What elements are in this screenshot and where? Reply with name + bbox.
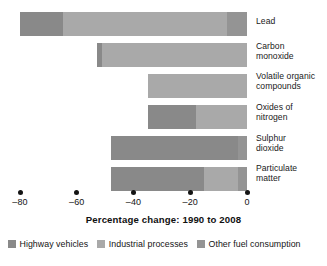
category-label: Lead [256,17,275,27]
x-axis-tick-label: –80 [0,197,40,207]
bar-segment [111,136,239,160]
bar-row [0,12,327,36]
stacked-bar [148,105,247,129]
legend-label: Other fuel consumption [209,239,301,249]
category-label: Particulate matter [256,164,297,183]
x-axis-tick-label: –60 [57,197,97,207]
stacked-bar [111,167,247,191]
bar-segment [196,105,247,129]
stacked-bar [148,74,247,98]
plot-area: LeadCarbon monoxideVolatile organic comp… [0,0,327,190]
x-axis: –80–60–40–200 [0,190,327,216]
chart-legend: Highway vehiclesIndustrial processesOthe… [0,234,327,254]
legend-item: Other fuel consumption [197,239,301,249]
stacked-bar-chart: LeadCarbon monoxideVolatile organic comp… [0,0,327,266]
stacked-bar [97,43,247,67]
category-label: Sulphur dioxide [256,134,286,153]
bar-segment [111,167,205,191]
x-axis-tick-label: –40 [114,197,154,207]
tick-dot-marker [188,190,193,195]
bar-segment [102,43,247,67]
x-axis-title: Percentage change: 1990 to 2008 [0,214,327,225]
bar-segment [148,105,196,129]
tick-dot-marker [245,190,250,195]
category-label: Carbon monoxide [256,42,294,61]
tick-dot-marker [18,190,23,195]
legend-color-swatch [97,240,105,248]
stacked-bar [111,136,247,160]
legend-item: Highway vehicles [8,239,88,249]
legend-label: Industrial processes [109,239,188,249]
legend-label: Highway vehicles [20,239,89,249]
bar-segment [148,74,247,98]
legend-color-swatch [8,240,16,248]
x-axis-tick-label: 0 [227,197,267,207]
category-label: Volatile organic compounds [256,72,315,91]
bar-segment [227,12,247,36]
bar-segment [204,167,238,191]
tick-dot-marker [74,190,79,195]
category-label: Oxides of nitrogen [256,103,293,122]
x-axis-tick-label: –20 [170,197,210,207]
legend-color-swatch [197,240,205,248]
stacked-bar [20,12,247,36]
bar-segment [20,12,63,36]
tick-dot-marker [131,190,136,195]
bar-segment [63,12,228,36]
bar-segment [238,167,247,191]
bar-segment [238,136,247,160]
legend-item: Industrial processes [97,239,188,249]
